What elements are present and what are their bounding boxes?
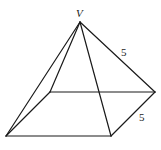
lateral-edge-label: 5 [121, 46, 127, 58]
lateral-edge-vc [80, 22, 155, 92]
base-edge-right [111, 92, 155, 136]
lateral-edge-va [6, 22, 80, 136]
lateral-edge-vd [50, 22, 80, 92]
lateral-edge-vb [80, 22, 111, 136]
apex-label: V [76, 7, 84, 19]
pyramid-diagram: V 5 5 [0, 0, 161, 150]
base-edge-left [6, 92, 50, 136]
base-edge-label: 5 [139, 111, 145, 123]
pyramid-svg: V 5 5 [0, 0, 161, 150]
